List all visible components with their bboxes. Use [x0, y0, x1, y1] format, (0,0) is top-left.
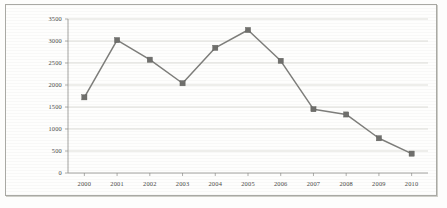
- x-axis-tick-label: 2006: [274, 180, 288, 187]
- data-point-marker: [114, 38, 119, 43]
- data-point-marker: [213, 45, 218, 50]
- y-axis-tick-label: 3500: [48, 15, 62, 22]
- data-point-marker: [311, 107, 316, 112]
- x-axis-tick-marks: [84, 173, 411, 176]
- y-axis-tick-labels: 0500100015002000250030003500: [48, 15, 62, 176]
- y-axis-tick-label: 2000: [48, 81, 62, 88]
- y-axis-tick-label: 2500: [48, 59, 62, 66]
- x-axis-tick-label: 2008: [339, 180, 353, 187]
- x-axis-tick-label: 2001: [110, 180, 124, 187]
- x-axis-tick-label: 2000: [78, 180, 92, 187]
- data-series-line: [84, 30, 411, 154]
- figure-root: 0500100015002000250030003500 20002001200…: [0, 0, 447, 208]
- data-point-marker: [82, 95, 87, 100]
- data-point-marker: [344, 112, 349, 117]
- data-point-marker: [245, 27, 250, 32]
- chart-canvas: 0500100015002000250030003500 20002001200…: [6, 5, 438, 197]
- y-axis-tick-label: 3000: [48, 37, 62, 44]
- x-axis-tick-label: 2004: [208, 180, 222, 187]
- y-axis-tick-label: 0: [59, 169, 62, 176]
- x-axis-tick-label: 2002: [143, 180, 157, 187]
- x-axis-tick-label: 2009: [372, 180, 386, 187]
- x-axis-tick-label: 2007: [307, 180, 321, 187]
- y-axis-tick-label: 1000: [48, 125, 62, 132]
- x-axis-tick-label: 2010: [405, 180, 419, 187]
- data-point-marker: [180, 81, 185, 86]
- chart-frame-border: 0500100015002000250030003500 20002001200…: [5, 4, 437, 196]
- y-axis-tick-label: 1500: [48, 103, 62, 110]
- data-point-marker: [147, 57, 152, 62]
- x-axis-tick-label: 2005: [241, 180, 255, 187]
- x-axis-tick-label: 2003: [176, 180, 190, 187]
- gridlines: [68, 19, 428, 151]
- y-axis-tick-marks: [65, 19, 68, 173]
- line-chart: 0500100015002000250030003500 20002001200…: [6, 5, 438, 197]
- data-point-marker: [409, 151, 414, 156]
- x-axis-tick-labels: 2000200120022003200420052006200720082009…: [78, 180, 419, 187]
- data-point-marker: [278, 58, 283, 63]
- y-axis-tick-label: 500: [52, 147, 62, 154]
- data-point-markers: [82, 27, 414, 156]
- data-point-marker: [376, 136, 381, 141]
